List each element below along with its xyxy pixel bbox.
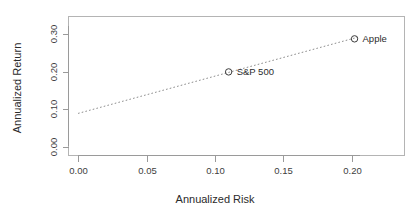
- plot-canvas: 0.30 0.20 0.10 0.00 0.00 0.05 0.10 0.15 …: [0, 0, 420, 219]
- y-tick-label-0: 0.00: [48, 138, 59, 157]
- x-tick-label-2: 0.10: [206, 165, 225, 176]
- x-axis-title: Annualized Risk: [176, 193, 255, 205]
- data-point-marker-1[interactable]: [351, 36, 357, 42]
- x-tick-label-0: 0.00: [69, 165, 88, 176]
- fit-line: [78, 37, 358, 113]
- x-tick-label-3: 0.15: [274, 165, 293, 176]
- y-tick-label-1: 0.10: [48, 100, 59, 119]
- scatter-plot-figure: 0.30 0.20 0.10 0.00 0.00 0.05 0.10 0.15 …: [0, 0, 420, 219]
- y-axis-title: Annualized Return: [11, 43, 23, 134]
- y-tick-label-2: 0.20: [48, 63, 59, 82]
- data-point-label-1: Apple: [363, 33, 387, 44]
- plot-frame: [69, 17, 405, 156]
- y-tick-label-3: 0.30: [48, 25, 59, 44]
- x-tick-label-4: 0.20: [343, 165, 362, 176]
- data-point-label-0: S&P 500: [237, 66, 274, 77]
- x-tick-label-1: 0.05: [138, 165, 157, 176]
